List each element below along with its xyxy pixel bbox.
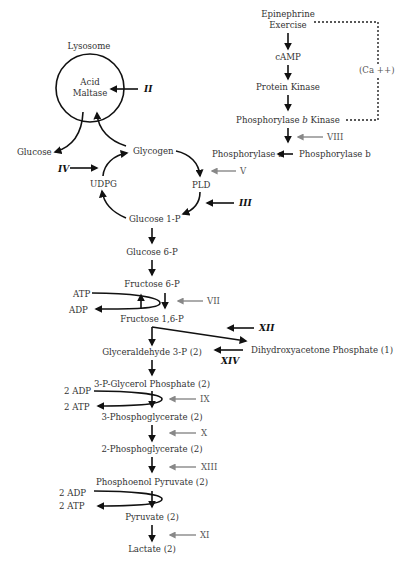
adp-label-1: ADP (68, 305, 88, 315)
glucose1p-to-udpg-arrow (102, 191, 126, 218)
adp-label-2: 2 ADP (64, 386, 91, 396)
phosphorylase-a-label: Phosphorylase a (212, 149, 283, 159)
glucose-1p-label: Glucose 1-P (129, 214, 181, 224)
fructose-6p-label: Fructose 6-P (124, 279, 180, 289)
defect-XII-label: XII (258, 323, 275, 333)
glycogen-to-lysosome-arrow (97, 113, 126, 146)
2-phosphoglycerate-label: 2-Phosphoglycerate (2) (101, 444, 202, 454)
3-phosphoglycerate-label: 3-Phosphoglycerate (2) (101, 412, 202, 422)
lysosome-to-glucose-arrow (55, 112, 83, 152)
lysosome-label: Lysosome (68, 41, 111, 51)
atp-label-2: 2 ATP (64, 402, 90, 412)
camp-label: cAMP (275, 52, 301, 62)
adp-label-3: 2 ADP (59, 488, 86, 498)
lactate-label: Lactate (2) (128, 544, 176, 554)
protein-kinase-label: Protein Kinase (256, 82, 320, 92)
fructose-16p-label: Fructose 1,6-P (120, 314, 184, 324)
glycogen-label: Glycogen (133, 146, 174, 156)
glucose-label: Glucose (17, 147, 52, 157)
defect-IV-label: IV (57, 164, 70, 174)
atp-label-1: ATP (72, 289, 90, 299)
defect-VIII-label: VIII (326, 132, 343, 142)
defect-II-label: II (143, 84, 153, 94)
defect-XI-label: XI (200, 530, 210, 540)
glycogen-to-pld-arrow (176, 151, 200, 176)
acid-maltase-label-2: Maltase (73, 88, 108, 98)
3p-glycerol-phosphate-label: 3-P-Glycerol Phosphate (2) (94, 379, 210, 389)
atp-adp-loop-1 (92, 293, 160, 309)
defect-V-label: V (239, 166, 247, 176)
phosphorylase-b-label: Phosphorylase b (299, 149, 371, 159)
g3p-label: Glyceraldehyde 3-P (2) (102, 347, 202, 357)
acid-maltase-label-1: Acid (79, 77, 100, 87)
defect-IX-label: IX (200, 394, 210, 404)
udpg-to-glycogen-arrow (103, 153, 127, 176)
defect-XIV-label: XIV (220, 356, 240, 366)
defect-III-label: III (238, 198, 252, 208)
calcium-label: (Ca ++) (359, 65, 395, 75)
defect-X-label: X (201, 428, 208, 438)
glucose-6p-label: Glucose 6-P (126, 247, 178, 257)
f16p-to-dhap-arrow (152, 327, 246, 341)
atp-label-3: 2 ATP (59, 501, 85, 511)
glycogen-glycolysis-diagram: Lysosome Acid Maltase II Glucose Glycoge… (0, 0, 395, 565)
pyruvate-label: Pyruvate (2) (125, 512, 179, 522)
pld-to-glucose1p-arrow (183, 192, 200, 214)
dhap-label: Dihydroxyacetone Phosphate (1) (251, 345, 393, 355)
pep-label: Phosphoenol Pyruvate (2) (96, 477, 208, 487)
phosphorylase-b-kinase-label: Phosphorylase b Kinase (236, 115, 340, 125)
udpg-label: UDPG (90, 179, 117, 189)
defect-VII-label: VII (206, 296, 220, 306)
pld-label: PLD (192, 180, 210, 190)
defect-XIII-label: XIII (201, 462, 217, 472)
epinephrine-label: Epinephrine (261, 9, 315, 19)
exercise-label: Exercise (269, 20, 306, 30)
